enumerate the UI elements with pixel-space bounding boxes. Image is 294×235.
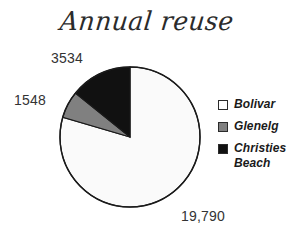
pie-svg — [59, 66, 201, 208]
legend-item-christies-beach: Christies Beach — [218, 141, 294, 171]
legend-swatch-bolivar — [218, 100, 228, 110]
legend-label-christies-beach-line2: Beach — [234, 156, 271, 170]
pie-slices — [60, 67, 200, 207]
value-label-bolivar: 19,790 — [181, 208, 225, 224]
chart-title: Annual reuse — [0, 6, 294, 36]
value-label-glenelg: 1548 — [14, 92, 46, 108]
legend-item-bolivar: Bolivar — [218, 97, 294, 112]
legend-swatch-glenelg — [218, 122, 228, 132]
legend-label-christies-beach-line1: Christies — [234, 141, 286, 155]
legend-swatch-christies-beach — [218, 144, 228, 154]
legend-item-glenelg: Glenelg — [218, 119, 294, 134]
pie-graphic — [59, 66, 201, 208]
legend-label-bolivar: Bolivar — [234, 97, 275, 112]
pie-chart-figure: Annual reuse 3534 1548 19,790 Bolivar Gl… — [0, 0, 294, 235]
legend-label-christies-beach: Christies Beach — [234, 141, 286, 171]
value-label-christies-beach: 3534 — [51, 50, 83, 66]
chart-legend: Bolivar Glenelg Christies Beach — [218, 97, 294, 178]
legend-label-glenelg: Glenelg — [234, 119, 279, 134]
